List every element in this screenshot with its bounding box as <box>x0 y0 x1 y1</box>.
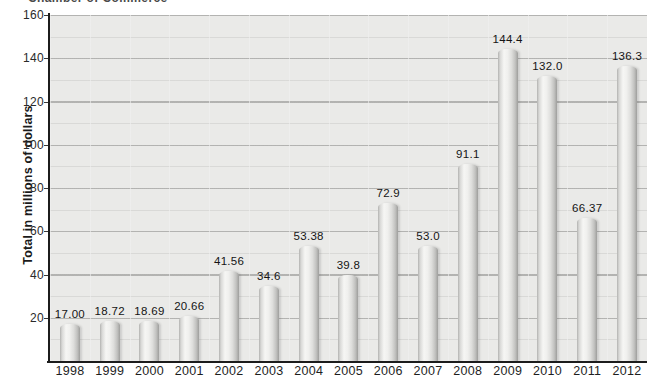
y-tick-mark <box>44 102 48 103</box>
y-tick-label: 140 <box>4 51 44 65</box>
bar-value-label: 39.8 <box>337 259 361 271</box>
x-tick-label: 2006 <box>368 364 408 381</box>
bar-value-label: 136.3 <box>612 50 642 62</box>
x-tick-label: 2004 <box>289 364 329 381</box>
bar-slot: 91.1 <box>448 15 488 361</box>
x-axis-labels: 1998199920002001200220032004200520062007… <box>50 364 647 381</box>
bar <box>179 316 199 361</box>
y-tick-label: 80 <box>4 181 44 195</box>
y-tick-mark <box>44 145 48 146</box>
chart: Chamber of Commerce Total in millions of… <box>0 0 647 381</box>
bar <box>338 275 358 361</box>
y-tick-mark <box>44 15 48 16</box>
bar-slot: 132.0 <box>528 15 568 361</box>
x-tick-label: 2005 <box>329 364 369 381</box>
x-tick-label: 1999 <box>90 364 130 381</box>
bar <box>219 271 239 361</box>
y-axis-line <box>48 13 50 363</box>
bar-slot: 39.8 <box>329 15 369 361</box>
bar <box>100 321 120 362</box>
x-tick-label: 2008 <box>448 364 488 381</box>
x-tick-label: 2001 <box>169 364 209 381</box>
bar-slot: 17.00 <box>50 15 90 361</box>
x-tick-label: 2009 <box>488 364 528 381</box>
x-tick-label: 2003 <box>249 364 289 381</box>
bar-slot: 53.0 <box>408 15 448 361</box>
y-tick-mark <box>44 231 48 232</box>
bar-value-label: 53.38 <box>294 230 324 242</box>
bar <box>458 164 478 361</box>
x-tick-label: 2002 <box>209 364 249 381</box>
y-tick-label: 60 <box>4 224 44 238</box>
x-tick-label: 1998 <box>50 364 90 381</box>
bar-value-label: 132.0 <box>532 60 562 72</box>
bar <box>60 324 80 361</box>
bar-value-label: 18.69 <box>134 305 164 317</box>
bar <box>617 66 637 361</box>
bar-slot: 18.72 <box>90 15 130 361</box>
y-tick-mark <box>44 275 48 276</box>
x-tick-label: 2011 <box>567 364 607 381</box>
plot-area: 17.0018.7218.6920.6641.5634.653.3839.872… <box>50 15 647 361</box>
y-tick-label: 100 <box>4 138 44 152</box>
bar-slot: 34.6 <box>249 15 289 361</box>
bar-value-label: 17.00 <box>55 308 85 320</box>
bar-slot: 20.66 <box>169 15 209 361</box>
bar <box>139 321 159 361</box>
bar-slot: 66.37 <box>567 15 607 361</box>
bar-value-label: 20.66 <box>174 300 204 312</box>
x-axis-line <box>47 361 647 363</box>
clipped-caption: Chamber of Commerce <box>28 0 168 5</box>
bar-value-label: 91.1 <box>456 148 480 160</box>
y-tick-label: 40 <box>4 268 44 282</box>
bar-slot: 136.3 <box>607 15 647 361</box>
bar-value-label: 53.0 <box>416 230 440 242</box>
bar <box>577 218 597 362</box>
bar-slot: 53.38 <box>289 15 329 361</box>
bar <box>418 246 438 361</box>
y-tick-label: 20 <box>4 311 44 325</box>
bar <box>537 76 557 361</box>
y-tick-mark <box>44 318 48 319</box>
bar-slot: 144.4 <box>488 15 528 361</box>
y-tick-label: 120 <box>4 95 44 109</box>
bar <box>259 286 279 361</box>
bar-value-label: 41.56 <box>214 255 244 267</box>
bar <box>498 49 518 361</box>
x-tick-label: 2007 <box>408 364 448 381</box>
x-tick-label: 2010 <box>528 364 568 381</box>
bar-value-label: 72.9 <box>376 187 400 199</box>
y-tick-label: 160 <box>4 8 44 22</box>
bar <box>299 246 319 361</box>
bar-slot: 72.9 <box>368 15 408 361</box>
x-tick-label: 2012 <box>607 364 647 381</box>
bar-slot: 41.56 <box>209 15 249 361</box>
bar-slot: 18.69 <box>130 15 170 361</box>
bar-value-label: 18.72 <box>95 305 125 317</box>
y-tick-mark <box>44 58 48 59</box>
bar-value-label: 144.4 <box>493 33 523 45</box>
bar-value-label: 66.37 <box>572 202 602 214</box>
x-tick-label: 2000 <box>130 364 170 381</box>
bar-value-label: 34.6 <box>257 270 281 282</box>
bar <box>378 203 398 361</box>
y-tick-mark <box>44 188 48 189</box>
